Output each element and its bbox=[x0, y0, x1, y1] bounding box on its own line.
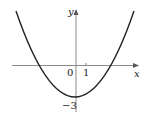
origin-label: 0 bbox=[67, 67, 73, 78]
y-intercept-label: −3 bbox=[62, 100, 77, 111]
y-axis-arrow-icon bbox=[74, 9, 79, 15]
x-axis-label: x bbox=[134, 68, 140, 79]
parabola-graph: y x 0 1 −3 bbox=[0, 0, 148, 117]
y-axis-label: y bbox=[67, 6, 74, 17]
parabola-curve bbox=[16, 11, 134, 97]
x-tick-label-1: 1 bbox=[83, 67, 89, 78]
